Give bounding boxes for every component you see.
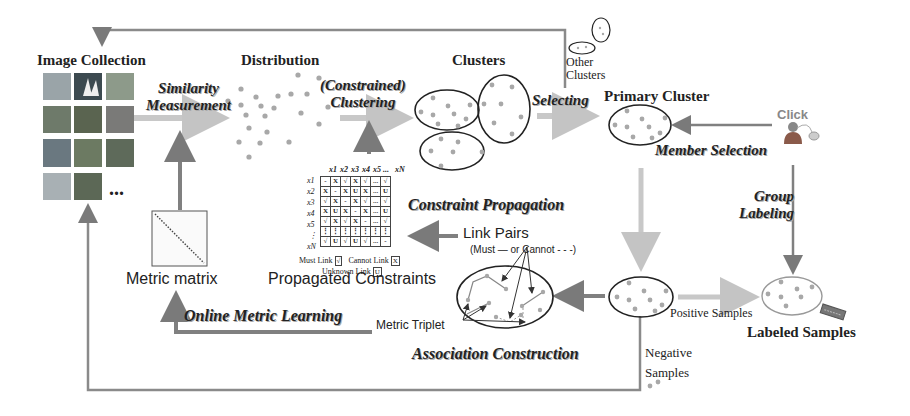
image-collection-title: Image Collection	[37, 52, 146, 69]
matrix-row-header: x2	[307, 187, 315, 196]
group-labeling-step-label: Group Labeling	[739, 188, 794, 222]
clustering-line2: Clustering	[320, 94, 406, 111]
matrix-row: √X√X-...√	[321, 217, 391, 227]
matrix-col-header: x2	[340, 165, 348, 174]
association-construction-step-label: Association Construction	[412, 345, 579, 363]
cluster-dots	[419, 83, 524, 169]
link-pair-pointers	[502, 247, 532, 318]
online-metric-learning-step-label: Online Metric Learning	[184, 307, 342, 325]
negative-samples-label: Negative Samples	[645, 343, 692, 383]
other-clusters-label: Other Clusters	[566, 56, 605, 82]
user-click-icon	[784, 122, 819, 144]
other-clusters	[569, 18, 610, 54]
click-label: Click	[777, 107, 808, 122]
similarity-line2: Measurement	[146, 97, 231, 114]
primary-cluster-title: Primary Cluster	[604, 88, 709, 105]
matrix-col-header: ...	[383, 165, 389, 174]
matrix-col-header: x3	[351, 165, 359, 174]
metric-matrix-title: Metric matrix	[126, 270, 218, 288]
matrix-row: √X-X√...√	[321, 197, 391, 207]
matrix-row-header: x3	[307, 198, 315, 207]
must-links	[467, 276, 543, 314]
similarity-line1: Similarity	[146, 80, 231, 97]
matrix-row-header: x1	[307, 176, 315, 185]
distribution-title: Distribution	[241, 52, 319, 69]
clusters-title: Clusters	[452, 52, 505, 69]
matrix-col-header: x5	[373, 165, 381, 174]
group-labeling-line1: Group	[739, 188, 794, 205]
constraint-matrix-table: -X√X√...√ X-XUX...U √X-X√...√ XUX-X...U …	[320, 176, 391, 247]
association-ellipse	[457, 266, 553, 328]
primary-cluster-ellipse	[609, 105, 671, 145]
matrix-col-header: x4	[362, 165, 370, 174]
matrix-col-header: x1	[329, 165, 337, 174]
member-selection-step-label: Member Selection	[655, 142, 767, 159]
legend-cannot-symbol: X	[391, 256, 400, 266]
label-tag-icon	[820, 304, 846, 320]
constraint-propagation-step-label: Constraint Propagation	[408, 196, 564, 214]
propagated-constraints-title: Propagated Constraints	[268, 270, 436, 288]
link-pairs-sub-label: (Must — or Cannot - - -)	[470, 244, 576, 255]
image-ellipsis: ...	[109, 177, 124, 200]
labeled-samples-title: Labeled Samples	[747, 324, 856, 341]
metric-matrix-icon	[152, 211, 207, 266]
matrix-row-header: xN	[307, 242, 316, 251]
matrix-row: -X√X√...√	[321, 177, 391, 187]
matrix-row: √U√U√...-	[321, 237, 391, 247]
selecting-step-label: Selecting	[532, 92, 589, 109]
clustering-line1: (Constrained)	[320, 77, 406, 94]
distribution-dots	[225, 72, 330, 159]
link-pairs-label: Link Pairs	[463, 224, 529, 241]
legend-must-symbol: √	[335, 256, 343, 266]
group-labeling-line2: Labeling	[739, 205, 794, 222]
other-clusters-line2: Clusters	[566, 69, 605, 82]
matrix-row-header: x4	[307, 209, 315, 218]
labeled-samples-ellipse	[762, 277, 822, 315]
negative-line1: Negative	[645, 343, 692, 363]
similarity-step-label: Similarity Measurement	[146, 80, 231, 114]
legend-must-label: Must Link	[299, 256, 333, 265]
metric-triplet-label: Metric Triplet	[376, 318, 445, 332]
matrix-col-header: xN	[395, 165, 405, 174]
matrix-row-header: x5	[307, 220, 315, 229]
legend-cannot-label: Cannot Link	[348, 256, 388, 265]
matrix-row: ⋮⋮⋮⋮⋮⋮⋮	[321, 227, 391, 237]
matrix-legend-row1: Must Link √ Cannot Link X	[299, 256, 400, 265]
matrix-row: X-XUX...U	[321, 187, 391, 197]
clustering-step-label: (Constrained) Clustering	[320, 77, 406, 111]
negative-line2: Samples	[645, 363, 692, 383]
positive-samples-label: Positive Samples	[670, 306, 752, 321]
matrix-row-header: ⋮	[309, 231, 317, 240]
matrix-row: XUX-X...U	[321, 207, 391, 217]
